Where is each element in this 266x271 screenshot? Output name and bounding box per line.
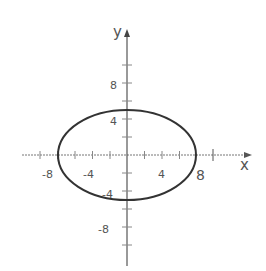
x-tick-label: 4 (158, 168, 165, 181)
y-tick-label: 8 (110, 79, 117, 92)
x-tick-label: -8 (42, 168, 53, 181)
x-tick-label: -4 (83, 168, 94, 181)
y-tick-label: 4 (110, 115, 117, 128)
y-tick-label: -4 (102, 188, 113, 201)
x-axis-label: x (240, 156, 249, 174)
y-tick-label: -8 (98, 223, 109, 236)
y-axis-label: y (113, 23, 122, 41)
x-tick-label: 8 (196, 167, 205, 183)
y-axis-arrow-icon (124, 29, 130, 37)
ellipse-graph: y x -8 -4 4 8 8 4 -4 -8 (0, 0, 266, 271)
